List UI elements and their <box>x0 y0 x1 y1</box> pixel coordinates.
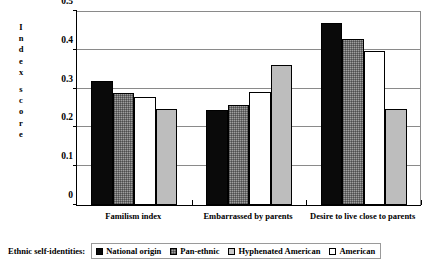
legend-box: National originPan-ethnicHyphenated Amer… <box>91 243 381 259</box>
y-axis-title-letter: r <box>8 118 34 129</box>
legend-swatch <box>329 248 336 255</box>
legend-label: Pan-ethnic <box>180 246 219 256</box>
y-axis-title-letter: o <box>8 106 34 117</box>
bar <box>91 81 113 205</box>
y-axis-title-letter: I <box>8 22 34 33</box>
bar-group <box>321 11 407 205</box>
y-axis-title-letter: c <box>8 95 34 106</box>
x-axis-category-label: Embarrassed by parents <box>185 211 312 223</box>
bar <box>364 51 386 205</box>
legend-swatch <box>228 248 235 255</box>
legend-swatch <box>170 248 177 255</box>
legend: Ethnic self-identities: National originP… <box>8 243 381 259</box>
legend-item: Pan-ethnic <box>170 246 219 256</box>
y-axis-tick-label: 0.5 <box>61 0 73 6</box>
legend-label: Hyphenated American <box>238 246 320 256</box>
x-axis-category-label: Familism index <box>70 211 197 223</box>
bar <box>113 93 135 205</box>
bar <box>228 105 250 205</box>
y-axis-tick-label: 0.2 <box>61 112 73 122</box>
y-axis-tick-label: 0 <box>68 190 73 200</box>
x-axis-tick-mark <box>306 200 307 205</box>
legend-title: Ethnic self-identities: <box>8 246 85 256</box>
bar-group <box>91 11 177 205</box>
y-axis-tick-label: 0.3 <box>61 74 73 84</box>
y-axis-title-letter: e <box>8 129 34 140</box>
bar <box>249 92 271 205</box>
bar-chart-figure: Indexscore 00.10.20.30.40.5 Familism ind… <box>0 0 430 272</box>
bar <box>342 39 364 205</box>
x-axis-tick-mark <box>192 200 193 205</box>
bar <box>134 97 156 205</box>
legend-item: Hyphenated American <box>228 246 320 256</box>
bar <box>206 110 228 205</box>
bar <box>271 65 293 205</box>
bar-group <box>206 11 292 205</box>
bar <box>321 23 343 205</box>
legend-label: American <box>339 246 375 256</box>
legend-label: National origin <box>106 246 161 256</box>
y-axis-title-letter: e <box>8 56 34 67</box>
legend-swatch <box>96 248 103 255</box>
y-axis-title-letter: d <box>8 44 34 55</box>
y-axis-tick-label: 0.1 <box>61 151 73 161</box>
bar <box>385 109 407 205</box>
plot-area: 00.10.20.30.40.5 <box>76 11 421 206</box>
x-axis-category-label: Desire to live close to parents <box>299 211 426 223</box>
y-axis-title-letter: s <box>8 84 34 95</box>
x-axis-tick-mark <box>421 200 422 205</box>
y-axis-title: Indexscore <box>8 22 34 140</box>
legend-item: American <box>329 246 375 256</box>
y-axis-title-letter: x <box>8 67 34 78</box>
legend-item: National origin <box>96 246 161 256</box>
y-axis-tick-label: 0.4 <box>61 35 73 45</box>
bars-layer <box>77 11 421 205</box>
bar <box>156 109 178 205</box>
y-axis-title-letter: n <box>8 33 34 44</box>
